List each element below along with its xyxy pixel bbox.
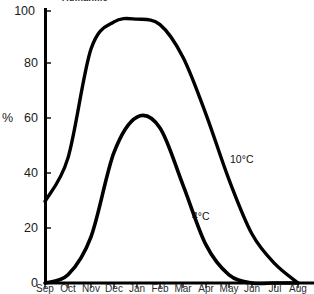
y-axis-label-80: 80 bbox=[8, 57, 38, 69]
series-annotation-4c: 4°C bbox=[192, 211, 210, 222]
series-line-4c bbox=[45, 115, 298, 283]
y-axis-label-100: 100 bbox=[5, 5, 35, 17]
y-axis-title: % bbox=[2, 112, 13, 124]
y-axis-label-40: 40 bbox=[8, 167, 38, 179]
x-axis-label-aug: Aug bbox=[283, 284, 313, 294]
series-annotation-10c: 10°C bbox=[230, 154, 253, 165]
y-axis-label-20: 20 bbox=[8, 222, 38, 234]
